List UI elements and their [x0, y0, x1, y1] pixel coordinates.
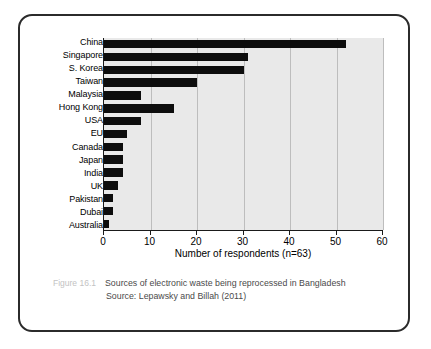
gridline-60 — [383, 38, 384, 230]
bar-japan — [104, 155, 123, 163]
bar-dubai — [104, 207, 113, 215]
y-axis-label-usa: USA — [42, 116, 103, 125]
y-axis-label-pakistan: Pakistan — [42, 195, 103, 204]
y-axis-label-hong-kong: Hong Kong — [42, 103, 103, 112]
y-axis-label-malaysia: Malaysia — [42, 90, 103, 99]
bar-row — [104, 194, 383, 202]
bar-canada — [104, 143, 123, 151]
bar-australia — [104, 220, 109, 228]
x-tick-label-30: 30 — [237, 236, 248, 247]
x-tick-40 — [289, 231, 290, 235]
bar-malaysia — [104, 91, 141, 99]
bar-eu — [104, 130, 127, 138]
bar-uk — [104, 181, 118, 189]
bar-row — [104, 40, 383, 48]
bar-singapore — [104, 53, 248, 61]
bar-taiwan — [104, 78, 197, 86]
bar-chart: ChinaSingaporeS. KoreaTaiwanMalaysiaHong… — [20, 32, 412, 262]
bar-row — [104, 78, 383, 86]
caption-title: Sources of electronic waste being reproc… — [105, 278, 346, 288]
y-axis-label-china: China — [42, 38, 103, 47]
bar-row — [104, 130, 383, 138]
figure-number: Figure 16.1 — [53, 278, 96, 288]
bar-row — [104, 104, 383, 112]
bar-pakistan — [104, 194, 113, 202]
figure-card: ChinaSingaporeS. KoreaTaiwanMalaysiaHong… — [18, 14, 410, 332]
bar-usa — [104, 117, 141, 125]
x-tick-label-50: 50 — [330, 236, 341, 247]
y-axis-label-eu: EU — [42, 129, 103, 138]
bar-hong-kong — [104, 104, 174, 112]
bar-row — [104, 207, 383, 215]
bar-row — [104, 168, 383, 176]
bar-row — [104, 53, 383, 61]
caption-source: Source: Lepawsky and Billah (2011) — [106, 291, 393, 301]
y-axis-label-australia: Australia — [42, 221, 103, 230]
y-axis-label-dubai: Dubai — [42, 208, 103, 217]
y-axis-category-labels: ChinaSingaporeS. KoreaTaiwanMalaysiaHong… — [42, 38, 103, 230]
y-axis-label-singapore: Singapore — [42, 51, 103, 60]
caption-first-line: Figure 16.1 Sources of electronic waste … — [53, 278, 393, 288]
y-axis-label-taiwan: Taiwan — [42, 77, 103, 86]
x-tick-20 — [196, 231, 197, 235]
x-tick-label-0: 0 — [100, 236, 106, 247]
x-tick-10 — [150, 231, 151, 235]
y-axis-label-japan: Japan — [42, 156, 103, 165]
bar-row — [104, 117, 383, 125]
bar-series — [104, 38, 383, 230]
bar-row — [104, 91, 383, 99]
y-axis-label-s-korea: S. Korea — [42, 64, 103, 73]
bar-row — [104, 143, 383, 151]
y-axis-label-india: India — [42, 169, 103, 178]
x-tick-label-20: 20 — [190, 236, 201, 247]
plot-area — [103, 38, 383, 231]
x-tick-60 — [382, 231, 383, 235]
x-tick-label-40: 40 — [283, 236, 294, 247]
x-tick-label-60: 60 — [376, 236, 387, 247]
x-axis-title: Number of respondents (n=63) — [103, 248, 383, 259]
figure-caption: Figure 16.1 Sources of electronic waste … — [53, 278, 393, 301]
x-tick-30 — [243, 231, 244, 235]
x-tick-label-10: 10 — [144, 236, 155, 247]
x-tick-0 — [103, 231, 104, 235]
bar-china — [104, 40, 346, 48]
y-axis-label-uk: UK — [42, 182, 103, 191]
bar-row — [104, 181, 383, 189]
bar-row — [104, 66, 383, 74]
bar-row — [104, 220, 383, 228]
x-tick-50 — [336, 231, 337, 235]
bar-s-korea — [104, 66, 244, 74]
bar-india — [104, 168, 123, 176]
y-axis-label-canada: Canada — [42, 143, 103, 152]
bar-row — [104, 155, 383, 163]
